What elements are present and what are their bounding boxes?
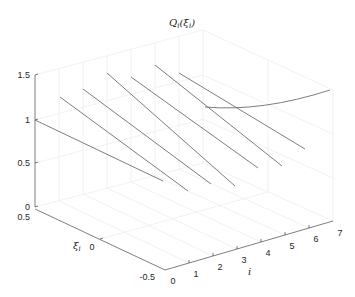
xi-axis-label: ξi (73, 240, 81, 253)
xi-tick-label: 0.5 (17, 212, 30, 222)
xi-tick-label: -0.5 (139, 272, 155, 282)
chart-title: Qi(ξi) (169, 17, 195, 30)
i-tick-label: 1 (193, 269, 198, 279)
z-tick-label: 1.5 (17, 70, 30, 80)
i-tick-label: 6 (313, 234, 318, 244)
i-tick-label: 0 (170, 276, 175, 286)
i-tick-label: 4 (265, 248, 270, 258)
series-i1 (60, 97, 188, 191)
axes (35, 74, 333, 270)
series-i7 (205, 90, 330, 108)
plot-canvas: 1.5 1 0.5 0 0.5 0 -0.5 0 1 2 3 4 5 6 7 ξ… (0, 0, 355, 297)
i-tick-label: 5 (289, 241, 294, 251)
series-i2 (83, 89, 211, 184)
xi-tick-label: 0 (89, 242, 94, 252)
grid-lines (35, 30, 333, 263)
z-tick-label: 1 (25, 115, 30, 125)
i-axis-label: i (248, 266, 251, 277)
i-tick-label: 7 (337, 228, 342, 238)
z-tick-label: 0 (25, 202, 30, 212)
series-i5 (155, 65, 282, 166)
xi-axis (35, 209, 165, 270)
series-i4 (131, 77, 258, 168)
series-i0 (35, 120, 163, 181)
z-tick-label: 0.5 (17, 158, 30, 168)
i-tick-label: 3 (241, 255, 246, 265)
series-i3 (107, 73, 235, 186)
series-i6 (179, 73, 305, 149)
data-series (35, 65, 330, 191)
i-tick-label: 2 (217, 262, 222, 272)
